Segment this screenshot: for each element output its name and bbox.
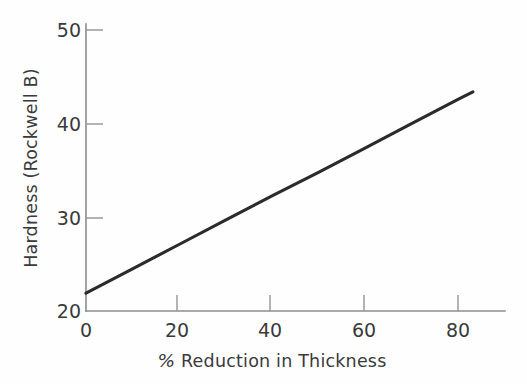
chart-figure: 50 40 30 20 0 20 40 60 80 % Reduction in… <box>0 0 527 384</box>
x-tick-label-60: 60 <box>352 319 376 341</box>
chart-plot-area: 50 40 30 20 0 20 40 60 80 % Reduction in… <box>0 0 527 384</box>
x-tick-label-0: 0 <box>80 319 92 341</box>
y-tick-label-40: 40 <box>57 113 81 135</box>
data-series-line <box>86 92 473 293</box>
x-axis-title-rest: Reduction in Thickness <box>175 351 386 371</box>
percent-glyph: % <box>158 350 176 371</box>
x-tick-label-80: 80 <box>446 319 470 341</box>
x-tick-label-40: 40 <box>258 319 282 341</box>
y-tick-label-20: 20 <box>57 300 81 322</box>
y-tick-label-30: 30 <box>57 207 81 229</box>
x-tick-label-20: 20 <box>165 319 189 341</box>
y-axis-title: Hardness (Rockwell B) <box>21 68 41 268</box>
x-axis-title: % Reduction in Thickness <box>158 350 387 371</box>
y-tick-label-50: 50 <box>57 19 81 41</box>
